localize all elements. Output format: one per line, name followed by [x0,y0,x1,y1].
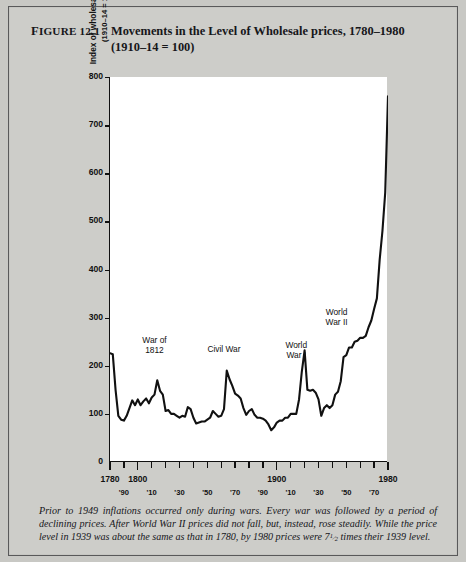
y-axis-tick-label: 800 [89,71,103,81]
x-axis-tick-mark [318,462,319,468]
x-axis-minor-label: '90 [258,488,268,497]
x-axis-tick-mark [221,462,222,468]
x-axis-major-label: 1800 [128,474,147,484]
series-polyline [110,96,388,430]
x-axis-tick-mark [304,462,305,468]
x-axis-major-label: 1900 [267,474,286,484]
price-index-line-series [110,77,388,462]
x-axis-tick-mark [137,462,138,470]
x-axis-tick-mark [179,462,180,468]
y-axis-tick-label: 500 [89,215,103,225]
y-axis-tick: 0 [84,462,110,463]
caption-fraction: 1/2 [330,530,338,546]
chart-plot-area: Index of wholesale prices (1910–14 = 100… [109,77,387,462]
figure-root: FIGURE 12.1 Movements in the Level of Wh… [0,0,466,562]
x-axis-tick-mark [234,462,235,468]
y-axis-tick: 300 [84,318,110,319]
figure-title-main: Movements in the Level of Wholesale pric… [111,24,405,40]
x-axis-minor-label: '70 [369,488,379,497]
x-axis-tick-mark [193,462,194,468]
x-axis-minor-label: '10 [286,488,296,497]
y-axis-tick-label: 200 [89,360,103,370]
y-axis-tick: 100 [84,414,110,415]
x-axis-minor-label: '90 [119,488,129,497]
figure-number-lead: F [31,24,39,38]
y-axis-label-line2: (1910–14 = 100) [100,0,109,42]
y-axis-tick: 800 [84,77,110,78]
x-axis-minor-label: '10 [147,488,157,497]
x-axis-minor-label: '30 [174,488,184,497]
y-axis-tick-label: 400 [89,264,103,274]
x-axis-tick-mark [262,462,263,468]
x-axis-tick-mark [332,462,333,468]
x-axis-major-label: 1980 [378,474,397,484]
y-axis-tick: 500 [84,221,110,222]
x-axis-tick-mark [151,462,152,468]
x-axis-minor-label: '30 [313,488,323,497]
y-axis-tick: 400 [84,270,110,271]
figure-title-texts: Movements in the Level of Wholesale pric… [111,24,405,55]
y-axis-tick-label: 600 [89,167,103,177]
caption-text-after: times their 1939 level. [338,531,430,542]
figure-plate: FIGURE 12.1 Movements in the Level of Wh… [8,6,458,556]
x-axis-tick-mark [290,462,291,468]
x-axis-tick-mark [276,462,277,470]
y-axis-tick-label: 100 [89,408,103,418]
y-axis-tick-label: 700 [89,119,103,129]
x-axis-tick-mark [123,462,124,468]
x-axis-major-label: 1780 [100,474,119,484]
x-axis-tick-mark [207,462,208,468]
y-axis-tick-label: 0 [98,456,103,466]
x-axis-tick-mark [109,462,110,470]
x-axis-minor-label: '70 [230,488,240,497]
y-axis-label-line1: Index of wholesale prices [88,0,98,64]
figure-title-subtitle: (1910–14 = 100) [111,40,405,56]
y-axis-tick: 700 [84,125,110,126]
x-axis-tick-mark [248,462,249,468]
y-axis-tick-label: 300 [89,312,103,322]
x-axis-tick-mark [373,462,374,468]
figure-caption: Prior to 1949 inflations occurred only d… [39,505,437,546]
x-axis-minor-label: '50 [341,488,351,497]
x-axis-minor-label: '50 [202,488,212,497]
x-axis-tick-mark [387,462,388,470]
x-axis-tick-mark [165,462,166,468]
y-axis-tick: 600 [84,173,110,174]
y-axis-tick: 200 [84,366,110,367]
x-axis-tick-mark [346,462,347,468]
x-axis-tick-mark [360,462,361,468]
